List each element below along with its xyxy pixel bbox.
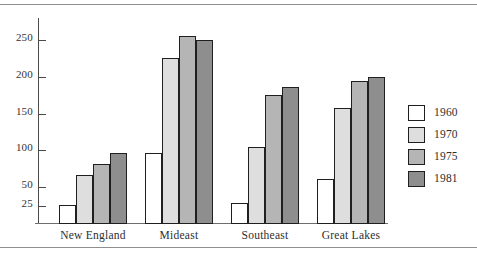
bar-group bbox=[317, 18, 385, 224]
legend-label: 1981 bbox=[434, 173, 458, 185]
legend-label: 1970 bbox=[434, 129, 458, 141]
bar bbox=[282, 87, 299, 224]
bar-group bbox=[145, 18, 213, 224]
legend-swatch bbox=[408, 127, 425, 143]
y-tick-label: 25 bbox=[22, 198, 33, 209]
bar bbox=[231, 203, 248, 224]
y-tick-label: 250 bbox=[16, 32, 33, 43]
bar bbox=[368, 77, 385, 224]
y-tick-label: 100 bbox=[16, 142, 33, 153]
bar bbox=[59, 205, 76, 224]
bar bbox=[248, 147, 265, 224]
bar bbox=[317, 179, 334, 224]
bar-series-container bbox=[38, 18, 388, 224]
chart-figure: 2550100150200250 New EnglandMideastSouth… bbox=[0, 0, 477, 255]
bar-group bbox=[59, 18, 127, 224]
bar bbox=[334, 108, 351, 224]
bar-group bbox=[231, 18, 299, 224]
legend-item: 1970 bbox=[408, 124, 472, 146]
chart-legend: 1960197019751981 bbox=[408, 102, 472, 190]
plot-area: 2550100150200250 New EnglandMideastSouth… bbox=[38, 18, 388, 224]
legend-swatch bbox=[408, 105, 425, 121]
x-axis-category-label: Great Lakes bbox=[287, 230, 415, 242]
legend-label: 1960 bbox=[434, 107, 458, 119]
legend-swatch bbox=[408, 171, 425, 187]
bar bbox=[162, 58, 179, 224]
bar bbox=[110, 153, 127, 224]
legend-item: 1981 bbox=[408, 168, 472, 190]
bar bbox=[76, 175, 93, 224]
bar bbox=[265, 95, 282, 224]
bar bbox=[196, 40, 213, 224]
legend-label: 1975 bbox=[434, 151, 458, 163]
y-tick-label: 150 bbox=[16, 106, 33, 117]
y-tick-label: 200 bbox=[16, 69, 33, 80]
bar bbox=[93, 164, 110, 224]
bar bbox=[145, 153, 162, 224]
top-divider-rule bbox=[0, 4, 477, 5]
bar bbox=[179, 36, 196, 224]
legend-item: 1960 bbox=[408, 102, 472, 124]
bottom-divider-rule bbox=[0, 247, 477, 248]
legend-swatch bbox=[408, 149, 425, 165]
bar bbox=[351, 81, 368, 224]
y-tick-label: 50 bbox=[22, 179, 33, 190]
legend-item: 1975 bbox=[408, 146, 472, 168]
